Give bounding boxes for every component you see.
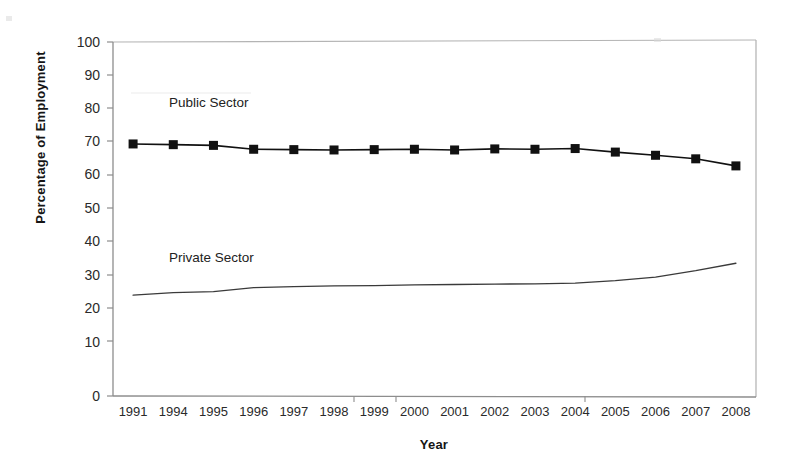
scan-speck bbox=[654, 38, 661, 42]
scan-speck bbox=[6, 16, 12, 21]
series-private-sector bbox=[133, 263, 736, 295]
x-tick-label-2004: 2004 bbox=[553, 405, 597, 418]
data-point-marker bbox=[571, 144, 580, 153]
x-tick-label-2002: 2002 bbox=[473, 405, 517, 418]
series-line bbox=[133, 263, 736, 295]
data-point-marker bbox=[169, 140, 178, 149]
employment-percentage-line-chart: Percentage of Employment 100 90 80 70 60… bbox=[0, 0, 790, 470]
plot-area bbox=[0, 0, 790, 470]
x-axis-title: Year bbox=[113, 437, 755, 452]
x-tick-label-2005: 2005 bbox=[593, 405, 637, 418]
y-axis-ticks bbox=[107, 42, 113, 396]
data-point-marker bbox=[651, 151, 660, 160]
x-tick-label-2001: 2001 bbox=[433, 405, 477, 418]
data-point-marker bbox=[209, 141, 218, 150]
x-tick-label-1997: 1997 bbox=[272, 405, 316, 418]
data-point-marker bbox=[129, 139, 138, 148]
data-point-marker bbox=[490, 144, 499, 153]
x-tick-label-2006: 2006 bbox=[634, 405, 678, 418]
data-point-marker bbox=[611, 148, 620, 157]
data-point-marker bbox=[450, 145, 459, 154]
data-point-marker bbox=[410, 145, 419, 154]
data-point-marker bbox=[530, 145, 539, 154]
data-point-marker bbox=[691, 154, 700, 163]
data-point-marker bbox=[330, 145, 339, 154]
scan-speck bbox=[131, 92, 251, 94]
series-public-sector bbox=[129, 139, 741, 170]
x-tick-label-2003: 2003 bbox=[513, 405, 557, 418]
x-tick-label-1996: 1996 bbox=[232, 405, 276, 418]
data-point-marker bbox=[370, 145, 379, 154]
data-point-marker bbox=[731, 161, 740, 170]
x-tick-label-2007: 2007 bbox=[674, 405, 718, 418]
x-tick-label-1991: 1991 bbox=[111, 405, 155, 418]
data-point-marker bbox=[289, 145, 298, 154]
x-tick-label-1994: 1994 bbox=[151, 405, 195, 418]
x-tick-label-1999: 1999 bbox=[352, 405, 396, 418]
x-tick-label-1995: 1995 bbox=[191, 405, 235, 418]
series-line bbox=[133, 144, 736, 166]
x-tick-label-2000: 2000 bbox=[392, 405, 436, 418]
data-point-marker bbox=[249, 145, 258, 154]
x-tick-label-1998: 1998 bbox=[312, 405, 356, 418]
x-tick-label-2008: 2008 bbox=[714, 405, 758, 418]
